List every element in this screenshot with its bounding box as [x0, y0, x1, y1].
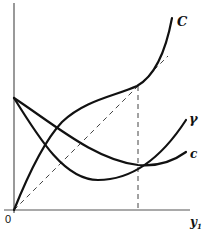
label-c: c	[190, 147, 198, 161]
origin-label: 0	[5, 213, 11, 225]
label-gamma: γ	[189, 111, 199, 126]
label-C: C	[177, 14, 188, 29]
curve-gamma	[14, 98, 186, 180]
x-axis-label-sub: 1	[197, 222, 202, 231]
diagram: C γ c 0 y1	[0, 0, 208, 236]
x-axis-label: y1	[189, 215, 202, 231]
